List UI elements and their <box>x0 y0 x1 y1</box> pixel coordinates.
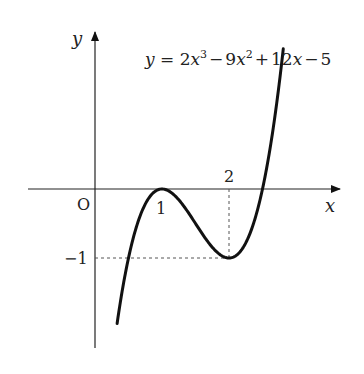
cubic-curve <box>117 49 283 324</box>
origin-label: O <box>77 195 90 214</box>
x-axis-label: x <box>325 195 335 216</box>
cubic-function-graph: y x O 1 2 −1 y = 2x3−9x2+12x−5 <box>0 0 364 374</box>
equation-label: y = 2x3−9x2+12x−5 <box>144 48 331 69</box>
y-axis-label: y <box>71 28 83 49</box>
x-tick-2: 2 <box>224 167 234 186</box>
x-tick-1: 1 <box>156 199 166 218</box>
y-tick-minus1: −1 <box>64 249 88 268</box>
